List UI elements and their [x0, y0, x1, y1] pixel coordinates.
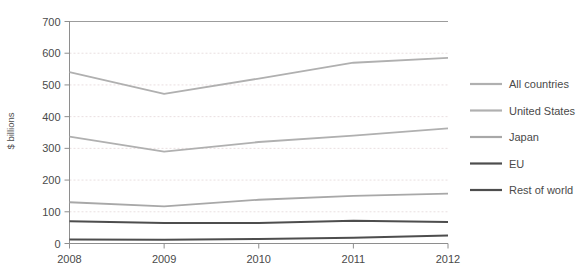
series-line-eu	[70, 221, 449, 223]
x-axis-ticks	[70, 244, 449, 249]
line-chart: 0100200300400500600700 20082009201020112…	[0, 0, 581, 279]
x-tick-label-2012: 2012	[436, 253, 460, 265]
y-tick-label-0: 0	[54, 238, 60, 250]
y-axis-ticks	[65, 22, 70, 244]
legend-label-rest-of-world: Rest of world	[509, 184, 573, 196]
x-axis-tick-labels: 20082009201020112012	[57, 253, 460, 265]
y-tick-label-600: 600	[42, 47, 60, 59]
series-line-all-countries	[70, 58, 449, 94]
x-tick-label-2008: 2008	[57, 253, 81, 265]
y-axis-title: $ billions	[5, 112, 16, 149]
y-tick-label-400: 400	[42, 111, 60, 123]
legend-label-all-countries: All countries	[509, 78, 569, 90]
legend-label-japan: Japan	[509, 131, 539, 143]
chart-canvas: 0100200300400500600700 20082009201020112…	[0, 0, 581, 279]
series-line-rest-of-world	[70, 236, 449, 240]
legend-label-united-states: United States	[509, 105, 576, 117]
y-tick-label-100: 100	[42, 206, 60, 218]
y-tick-label-300: 300	[42, 142, 60, 154]
y-tick-label-500: 500	[42, 79, 60, 91]
legend-label-eu: EU	[509, 158, 524, 170]
y-axis-tick-labels: 0100200300400500600700	[42, 16, 60, 250]
chart-legend: All countriesUnited StatesJapanEURest of…	[470, 78, 576, 196]
x-tick-label-2009: 2009	[152, 253, 176, 265]
x-tick-label-2011: 2011	[342, 253, 366, 265]
y-tick-label-700: 700	[42, 16, 60, 28]
series-line-japan	[70, 194, 449, 207]
x-tick-label-2010: 2010	[247, 253, 271, 265]
y-tick-label-200: 200	[42, 174, 60, 186]
